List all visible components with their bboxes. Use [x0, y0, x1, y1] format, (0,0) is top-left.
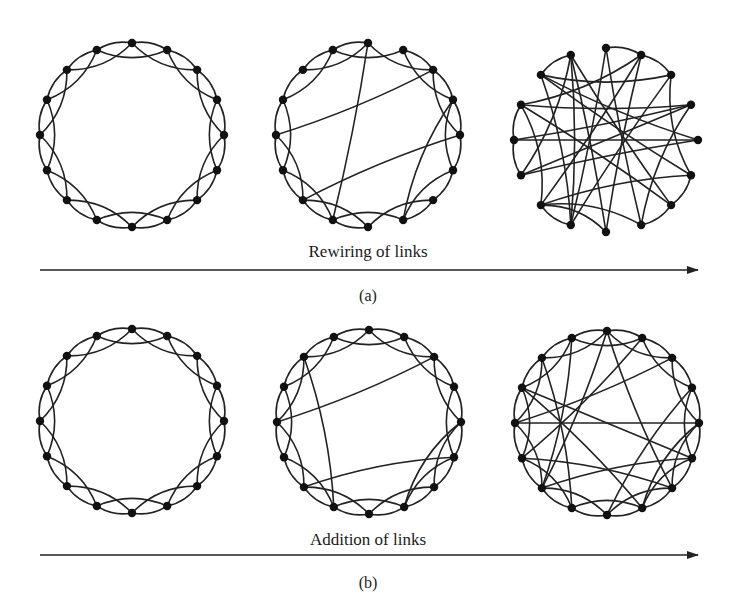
node	[43, 166, 51, 174]
panel-a-caption: (a)	[359, 287, 377, 305]
network-graph-regular-ring-lattice	[36, 39, 228, 231]
node	[93, 332, 101, 340]
node	[688, 454, 696, 462]
node	[510, 136, 518, 144]
node	[687, 171, 695, 179]
node	[668, 354, 676, 362]
node	[300, 483, 308, 491]
edge	[304, 457, 454, 487]
node	[429, 66, 437, 74]
node	[517, 171, 525, 179]
edge	[284, 387, 292, 457]
edge	[47, 170, 97, 220]
edge	[304, 357, 334, 507]
node	[93, 216, 101, 224]
node	[429, 196, 437, 204]
node	[688, 384, 696, 392]
edge	[572, 338, 642, 346]
node	[687, 101, 695, 109]
node	[365, 510, 373, 518]
node	[193, 352, 201, 360]
node	[399, 216, 407, 224]
node	[430, 353, 438, 361]
edge	[47, 456, 97, 506]
edge	[97, 336, 167, 344]
edge	[167, 336, 217, 386]
node	[273, 418, 281, 426]
edge	[284, 337, 334, 387]
edge	[541, 75, 571, 225]
panel-b-graphs	[36, 325, 703, 519]
node	[93, 502, 101, 510]
edge	[333, 212, 403, 220]
edge	[671, 175, 691, 205]
edge	[541, 55, 571, 75]
node	[638, 334, 646, 342]
node	[163, 332, 171, 340]
node	[449, 96, 457, 104]
edge	[277, 357, 434, 422]
edge	[641, 205, 671, 225]
node	[299, 66, 307, 74]
node	[667, 201, 675, 209]
node	[279, 96, 287, 104]
edge	[514, 105, 691, 140]
edge	[275, 100, 283, 135]
node	[668, 484, 676, 492]
network-graph-regular-ring-lattice	[36, 325, 228, 517]
edge	[572, 500, 642, 508]
edge	[276, 70, 433, 135]
edge	[642, 458, 692, 508]
node	[430, 483, 438, 491]
edge	[403, 170, 453, 220]
node	[329, 46, 337, 54]
node	[568, 334, 576, 342]
node	[93, 46, 101, 54]
edge	[167, 170, 217, 220]
edge	[303, 135, 460, 200]
node	[538, 354, 546, 362]
node	[36, 131, 44, 139]
node	[511, 419, 519, 427]
node	[43, 382, 51, 390]
node	[193, 66, 201, 74]
panel-b: Addition of links (b)	[36, 325, 703, 592]
edge	[47, 50, 97, 100]
node	[163, 46, 171, 54]
node	[128, 223, 136, 231]
node	[279, 166, 287, 174]
edge	[47, 336, 97, 386]
edge	[209, 100, 217, 170]
node	[399, 46, 407, 54]
node	[300, 353, 308, 361]
node	[638, 504, 646, 512]
panel-b-caption: (b)	[359, 574, 378, 592]
node	[193, 196, 201, 204]
node	[163, 216, 171, 224]
edge	[521, 105, 542, 205]
small-world-network-figure: Rewiring of links (a) Addition of links …	[0, 0, 735, 615]
node	[694, 136, 702, 144]
node	[63, 352, 71, 360]
node	[364, 39, 372, 47]
edge	[670, 75, 691, 175]
node	[213, 382, 221, 390]
node	[537, 71, 545, 79]
node	[568, 504, 576, 512]
node	[128, 509, 136, 517]
edge	[513, 140, 521, 175]
edge	[453, 135, 461, 170]
edge	[283, 170, 333, 220]
node	[63, 482, 71, 490]
node	[567, 221, 575, 229]
edge	[446, 387, 454, 457]
node	[602, 44, 610, 52]
network-graph-small-world-added	[273, 326, 465, 518]
edge	[167, 456, 217, 506]
edge	[47, 386, 55, 456]
edge	[97, 498, 167, 506]
node	[213, 452, 221, 460]
node	[637, 51, 645, 59]
edge	[515, 358, 672, 423]
node	[280, 453, 288, 461]
